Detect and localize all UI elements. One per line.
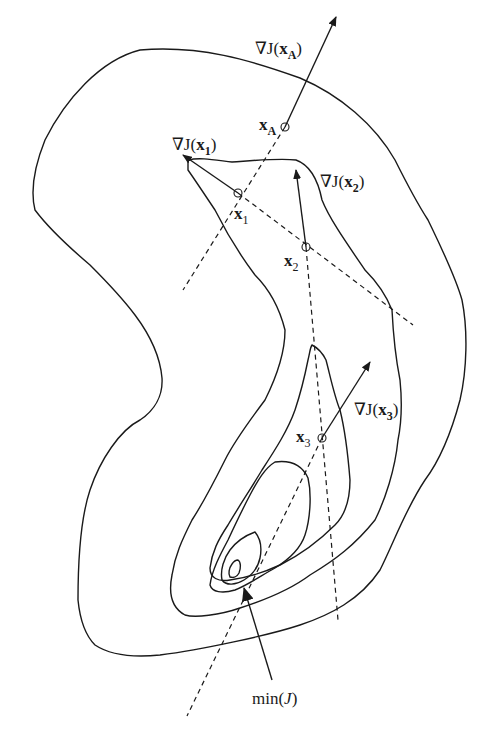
contour-level-1 (171, 159, 402, 616)
gradient-label-x1: ∇J(x1) (172, 135, 216, 158)
gradient-label-x2: ∇J(x2) (320, 172, 364, 195)
label-x2: x2 (284, 251, 299, 274)
search-line-x1-x2 (238, 193, 413, 325)
gradient-label-x3: ∇J(x3) (354, 400, 398, 423)
contour-diagram: xA x1 x2 x3 ∇J(xA) ∇J(x1) ∇J(x2) ∇J(x3) … (0, 0, 489, 738)
gradient-arrow-xA (285, 17, 336, 127)
contour-outer (33, 49, 466, 656)
minimum-label: min(J) (252, 689, 297, 708)
label-x1: x1 (234, 204, 249, 227)
contour-level-2 (210, 345, 350, 581)
label-xA: xA (259, 115, 277, 138)
label-x3: x3 (296, 427, 311, 450)
gradient-arrow-x2 (296, 170, 306, 247)
gradient-label-xA: ∇J(xA) (255, 39, 302, 62)
search-line-x3-min (187, 438, 322, 716)
contour-level-5-minimum (229, 560, 240, 577)
